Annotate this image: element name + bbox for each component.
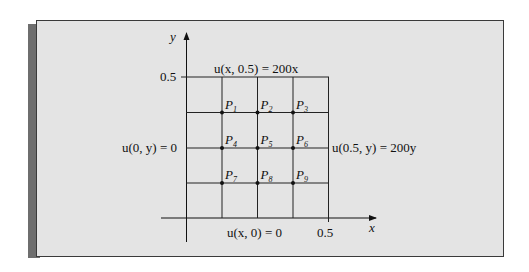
- node-label-p5: P5: [260, 132, 273, 149]
- bc-left: u(0, y) = 0: [122, 140, 177, 155]
- node-p1: [220, 111, 224, 115]
- grid-lines: [181, 77, 329, 222]
- x-tick-label: 0.5: [317, 225, 333, 240]
- node-p2: [256, 111, 260, 115]
- node-label-p7: P7: [224, 167, 238, 184]
- node-p3: [291, 111, 295, 115]
- node-p4: [220, 146, 224, 150]
- node-label-p3: P3: [295, 97, 308, 114]
- node-p6: [291, 146, 295, 150]
- node-p7: [220, 181, 224, 185]
- node-label-p9: P9: [295, 167, 308, 184]
- node-label-p2: P2: [260, 97, 273, 114]
- node-label-p6: P6: [295, 132, 308, 149]
- node-label-p1: P1: [224, 97, 237, 114]
- node-p5: [256, 146, 260, 150]
- bc-right: u(0.5, y) = 200y: [332, 140, 417, 155]
- y-tick-label: 0.5: [160, 69, 176, 84]
- node-p8: [256, 181, 260, 185]
- x-axis-label: x: [368, 220, 375, 235]
- node-p9: [291, 181, 295, 185]
- bc-bottom: u(x, 0) = 0: [227, 225, 282, 240]
- y-axis-label: y: [168, 29, 176, 44]
- grid-diagram: P1 P2 P3 P4 P5 P6 P7 P8 P9 y x 0.5 0.5 u…: [0, 0, 529, 272]
- node-labels: P1 P2 P3 P4 P5 P6 P7 P8 P9: [224, 97, 308, 184]
- node-label-p4: P4: [224, 132, 237, 149]
- bc-top: u(x, 0.5) = 200x: [214, 61, 299, 76]
- node-label-p8: P8: [260, 167, 273, 184]
